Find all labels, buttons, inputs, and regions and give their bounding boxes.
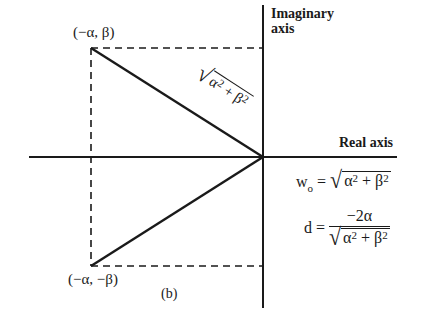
alpha-exponent: 2 (352, 229, 358, 241)
sqrt-symbol-icon: √ (329, 226, 341, 248)
imaginary-axis-label: Imaginary axis (271, 6, 334, 36)
w-subscript: o (308, 182, 314, 194)
sqrt-symbol-icon: √ (330, 169, 342, 191)
upper-pole-label: (−α, β) (73, 24, 114, 41)
damping-ratio-equation: d = −2α √ α2 + β2 (304, 207, 390, 248)
alpha-term: α (344, 172, 352, 189)
s-plane-diagram (0, 0, 432, 313)
real-axis-label: Real axis (339, 135, 393, 150)
d-symbol: d (304, 219, 312, 237)
lower-pole-vector (91, 157, 263, 266)
natural-frequency-equation: wo = √ α2 + β2 (296, 170, 391, 191)
beta-term: β (374, 229, 382, 246)
figure-caption: (b) (161, 286, 177, 302)
lower-pole-label: (−α, −β) (68, 271, 118, 288)
beta-exponent: 2 (382, 229, 388, 241)
plus-sign: + (362, 172, 371, 189)
beta-exponent: 2 (383, 172, 389, 184)
fraction: −2α √ α2 + β2 (329, 207, 390, 248)
denominator: √ α2 + β2 (329, 227, 390, 248)
plus-sign: + (361, 229, 370, 246)
w-symbol: w (296, 173, 308, 190)
alpha-exponent: 2 (353, 172, 359, 184)
equals-sign: = (316, 219, 325, 237)
imaginary-axis-label-line2: axis (271, 21, 334, 36)
equals-sign: = (317, 173, 326, 190)
alpha-term: α (343, 229, 351, 246)
imaginary-axis-label-line1: Imaginary (271, 6, 334, 21)
beta-term: β (375, 172, 383, 189)
